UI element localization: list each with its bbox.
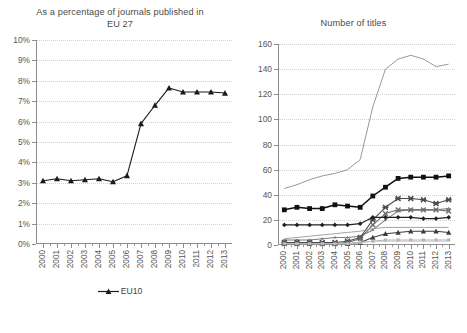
x-minor-tick [176,244,177,246]
x-tick [127,244,128,248]
x-tick [57,244,58,248]
x-minor-tick [404,245,405,247]
x-minor-tick [417,245,418,247]
y-axis-label: 6% [18,118,30,126]
x-minor-tick [218,244,219,246]
x-tick [71,244,72,248]
x-tick [411,245,412,249]
left-series-layer [36,40,232,244]
x-tick [436,245,437,249]
y-axis-label: 0% [18,240,30,248]
x-minor-tick [291,245,292,247]
x-axis-label: 2002 [306,251,314,269]
y-axis-label: 40 [263,191,272,199]
x-axis-label: 2009 [394,251,402,269]
x-tick [373,245,374,249]
x-tick [155,244,156,248]
y-axis-label: 0 [267,241,272,249]
y-axis-label: 120 [258,90,272,98]
x-tick [398,245,399,249]
x-minor-tick [148,244,149,246]
x-minor-tick [50,244,51,246]
x-axis-label: 2010 [407,251,415,269]
y-axis-label: 160 [258,40,272,48]
x-minor-tick [64,244,65,246]
y-axis-label: 2% [18,199,30,207]
right-chart-title: Number of titles [240,18,467,30]
x-minor-tick [442,245,443,247]
x-tick [197,244,198,248]
y-tick [32,244,36,245]
x-axis-label: 2012 [432,251,440,269]
series-ro [284,55,448,188]
x-axis-label: 2006 [356,251,364,269]
x-tick [211,244,212,248]
left-chart-legend: EU10 [0,286,240,297]
x-axis-label: 2008 [151,250,159,268]
x-axis-label: 2005 [109,250,117,268]
x-minor-tick [341,245,342,247]
x-tick [360,245,361,249]
series-cz [282,174,451,213]
y-tick [274,245,278,246]
x-minor-tick [106,244,107,246]
x-tick [113,244,114,248]
y-axis-label: 80 [263,141,272,149]
y-axis-label: 8% [18,77,30,85]
x-minor-tick [303,245,304,247]
x-tick [99,244,100,248]
left-chart-title: As a percentage of journals published in… [0,7,240,30]
x-minor-tick [392,245,393,247]
x-axis-label: 2011 [193,250,201,268]
x-tick [183,244,184,248]
legend-item-eu10[interactable]: EU10 [98,286,143,297]
x-axis-label: 2001 [293,251,301,269]
right-plot-area: 020406080100120140160 200020012002200320… [278,44,455,245]
x-minor-tick [120,244,121,246]
x-tick [85,244,86,248]
x-axis-label: 2004 [331,251,339,269]
x-minor-tick [204,244,205,246]
y-axis-label: 20 [263,216,272,224]
x-tick [169,244,170,248]
y-axis-label: 10% [13,36,30,44]
left-chart-panel: As a percentage of journals published in… [0,0,240,333]
left-chart-title-line1: As a percentage of journals published in [0,7,240,19]
x-tick [423,245,424,249]
x-tick [449,245,450,249]
left-plot-area: 0%1%2%3%4%5%6%7%8%9%10% 2000200120022003… [36,40,232,244]
x-tick [225,244,226,248]
x-axis-label: 2003 [81,250,89,268]
x-minor-tick [162,244,163,246]
x-axis-label: 2000 [39,250,47,268]
x-minor-tick [367,245,368,247]
y-axis-label: 5% [18,138,30,146]
y-axis-label: 140 [258,65,272,73]
y-axis-label: 9% [18,56,30,64]
x-axis-label: 2007 [137,250,145,268]
x-minor-tick [134,244,135,246]
y-axis-label: 7% [18,97,30,105]
figure-root: As a percentage of journals published in… [0,0,467,333]
y-axis-label: 3% [18,179,30,187]
x-axis-label: 2013 [221,250,229,268]
x-axis-label: 2006 [123,250,131,268]
x-tick [43,244,44,248]
x-minor-tick [190,244,191,246]
x-axis-label: 2002 [67,250,75,268]
y-axis-label: 60 [263,166,272,174]
legend-marker-eu10 [98,287,119,296]
x-axis-label: 2009 [165,250,173,268]
y-axis-label: 1% [18,220,30,228]
x-minor-tick [78,244,79,246]
x-axis-label: 2010 [179,250,187,268]
x-axis-label: 2000 [280,251,288,269]
series-sk [282,215,451,227]
right-chart-panel: Number of titles 020406080100120140160 2… [240,0,467,333]
right-series-layer [278,44,455,245]
series-eu10 [40,85,228,184]
y-axis-label: 4% [18,158,30,166]
legend-row: EU10 [0,286,240,297]
x-minor-tick [92,244,93,246]
x-minor-tick [329,245,330,247]
